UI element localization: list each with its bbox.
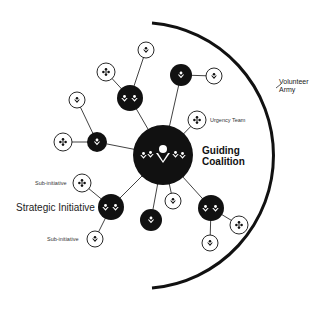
volunteer-army-line-1: Volunteer (279, 78, 309, 86)
leaf-node-lower-right[interactable] (202, 235, 218, 251)
leaf-node-top-team[interactable] (97, 63, 115, 81)
leaf-node-upper-right[interactable] (206, 68, 222, 84)
initiative-node-top[interactable] (117, 85, 143, 111)
leaf-node-top[interactable] (138, 42, 154, 58)
volunteer-army-line-2: Army (279, 86, 309, 94)
strategic-initiative-node[interactable] (98, 194, 124, 220)
sub-initiative-node-bottom[interactable] (87, 231, 103, 247)
guiding-coalition-node[interactable] (133, 125, 193, 185)
sub-initiative-label-top: Sub-initiative (35, 180, 67, 186)
volunteer-army-label: Volunteer Army (279, 78, 309, 93)
initiative-node-lower-right[interactable] (198, 195, 224, 221)
coalition-diagram (0, 0, 326, 309)
leaf-node-lower-right-team[interactable] (230, 216, 248, 234)
initiative-node-left[interactable] (87, 132, 107, 152)
leaf-node-left-top[interactable] (69, 92, 85, 108)
guiding-coalition-line-2: Coalition (202, 156, 245, 167)
initiative-node-bottom[interactable] (140, 209, 162, 231)
urgency-team-label: Urgency Team (210, 117, 245, 123)
leaf-node-bottom-center[interactable] (165, 193, 181, 209)
guiding-coalition-line-1: Guiding (202, 145, 245, 156)
initiative-node-upper-right[interactable] (170, 64, 192, 86)
strategic-initiative-label: Strategic Initiative (16, 202, 95, 213)
urgency-team-node[interactable] (188, 111, 206, 129)
sub-initiative-node-top[interactable] (73, 174, 91, 192)
guiding-coalition-label: Guiding Coalition (202, 145, 245, 167)
leaf-node-left-team[interactable] (54, 133, 72, 151)
sub-initiative-label-bottom: Sub-initiative (47, 236, 79, 242)
